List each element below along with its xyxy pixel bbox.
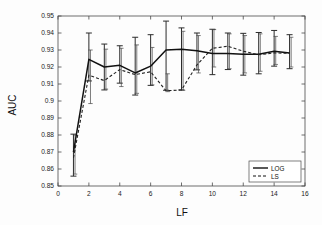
x-tick-label: 2: [87, 190, 91, 197]
y-tick-label: 0.87: [41, 148, 54, 155]
legend-label-log: LOG: [271, 165, 285, 172]
y-tick-label: 0.91: [41, 80, 54, 87]
y-tick-label: 0.94: [41, 29, 54, 36]
legend-label-ls: LS: [271, 173, 279, 180]
auc-vs-lf-chart: 02468101214160.850.860.870.880.890.90.91…: [0, 0, 322, 225]
y-axis-title: AUC: [7, 94, 18, 115]
x-tick-label: 14: [270, 190, 278, 197]
x-tick-label: 16: [301, 190, 309, 197]
y-tick-label: 0.85: [41, 182, 54, 189]
x-tick-label: 4: [118, 190, 122, 197]
y-tick-label: 0.88: [41, 131, 54, 138]
y-tick-label: 0.95: [41, 12, 54, 19]
y-tick-label: 0.86: [41, 165, 54, 172]
x-tick-label: 0: [56, 190, 60, 197]
y-tick-label: 0.89: [41, 114, 54, 121]
x-tick-label: 10: [209, 190, 217, 197]
x-tick-label: 12: [240, 190, 248, 197]
y-tick-label: 0.92: [41, 63, 54, 70]
y-tick-label: 0.9: [45, 97, 54, 104]
y-tick-label: 0.93: [41, 46, 54, 53]
error-bars-layer: [70, 21, 293, 176]
figure-container: 02468101214160.850.860.870.880.890.90.91…: [0, 0, 322, 225]
x-axis-title: LF: [176, 207, 188, 218]
x-tick-label: 8: [180, 190, 184, 197]
legend[interactable]: LOGLS: [249, 161, 301, 182]
x-tick-label: 6: [149, 190, 153, 197]
